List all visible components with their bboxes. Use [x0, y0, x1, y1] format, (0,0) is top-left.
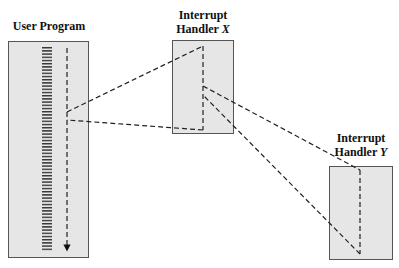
edge-y-to-x: [203, 95, 360, 254]
flow-lines: [0, 0, 399, 268]
edge-x-to-y: [203, 86, 360, 170]
user-program-instructions: [42, 47, 52, 251]
edge-x-to-user: [67, 120, 203, 130]
edge-user-to-x: [67, 46, 203, 112]
